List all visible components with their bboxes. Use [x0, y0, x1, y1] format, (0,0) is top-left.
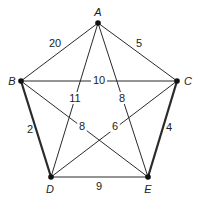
edge-weight-b-e: 8 [79, 120, 85, 132]
edge-weight-a-d: 11 [69, 92, 80, 104]
edge-a-c [98, 23, 177, 81]
edge-weight-c-d: 6 [112, 120, 118, 132]
vertex-c [174, 78, 180, 84]
vertex-label-a: A [93, 6, 101, 18]
vertex-b [18, 78, 24, 84]
edge-a-b [21, 23, 98, 81]
vertex-e [145, 174, 151, 180]
edge-weight-d-e: 9 [96, 180, 102, 192]
vertex-a [95, 20, 101, 26]
edge-weight-a-c: 5 [136, 37, 142, 49]
weighted-graph-diagram: 2051011828649 ABCDE [0, 0, 199, 203]
edge-weight-a-e: 8 [119, 92, 125, 104]
edge-weight-b-d: 2 [27, 123, 33, 135]
edges-layer [21, 23, 177, 177]
nodes-layer: ABCDE [8, 6, 192, 195]
edge-weight-a-b: 20 [49, 37, 61, 49]
vertex-label-e: E [144, 183, 152, 195]
edge-c-e [148, 81, 177, 177]
vertex-label-d: D [46, 183, 54, 195]
vertex-label-c: C [184, 75, 192, 87]
edge-weight-c-e: 4 [166, 121, 172, 133]
edge-b-d [21, 81, 51, 177]
vertex-d [48, 174, 54, 180]
vertex-label-b: B [8, 75, 15, 87]
edge-weight-b-c: 10 [93, 74, 105, 86]
